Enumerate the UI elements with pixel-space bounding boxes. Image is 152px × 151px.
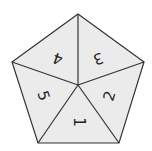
section-label-1: 1 xyxy=(70,117,88,127)
pentagon-diagram: 1 2 3 4 5 xyxy=(0,0,152,151)
